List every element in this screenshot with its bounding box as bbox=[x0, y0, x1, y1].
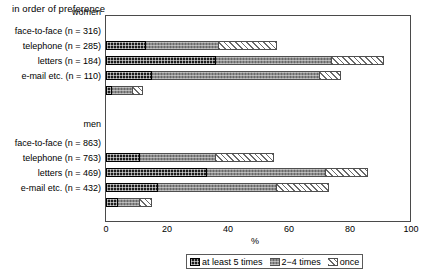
x-axis-tick-label: 20 bbox=[152, 224, 182, 234]
x-axis-tick-label: 100 bbox=[396, 224, 422, 234]
bar-segment-2−4-times bbox=[112, 86, 133, 95]
bar-segment-at-least-5-times bbox=[106, 198, 118, 207]
bar-segment-at-least-5-times bbox=[106, 41, 146, 50]
legend-item: once bbox=[328, 257, 360, 267]
legend-label: at least 5 times bbox=[202, 257, 263, 267]
category-label: letters (n = 469) bbox=[1, 168, 101, 178]
bar-segment-once bbox=[219, 41, 277, 50]
bar-row bbox=[106, 86, 143, 95]
white-hatch-swatch bbox=[328, 258, 338, 266]
category-label: face-to-face (n = 863) bbox=[1, 138, 101, 148]
bar-row bbox=[106, 183, 329, 192]
bar-segment-2−4-times bbox=[140, 153, 216, 162]
bar-row bbox=[106, 56, 384, 65]
bar-segment-2−4-times bbox=[118, 198, 139, 207]
x-axis-ticks: 020406080100 bbox=[0, 224, 422, 236]
bar-segment-at-least-5-times bbox=[106, 153, 140, 162]
category-label: telephone (n = 763) bbox=[1, 153, 101, 163]
bar-segment-once bbox=[216, 153, 274, 162]
x-axis-tick-label: 60 bbox=[274, 224, 304, 234]
legend-label: once bbox=[340, 257, 360, 267]
legend-item: at least 5 times bbox=[190, 257, 263, 267]
bar-row bbox=[106, 153, 274, 162]
x-axis-tick-label: 40 bbox=[213, 224, 243, 234]
category-label-column: womenface-to-face (n = 316)telephone (n … bbox=[0, 0, 101, 222]
legend-label: 2−4 times bbox=[282, 257, 321, 267]
bar-row bbox=[106, 198, 152, 207]
bar-segment-2−4-times bbox=[216, 56, 332, 65]
bar-row bbox=[106, 41, 277, 50]
bar-segment-once bbox=[332, 56, 384, 65]
bar-segment-once bbox=[326, 168, 369, 177]
x-axis-label: % bbox=[0, 236, 422, 246]
category-label: e-mail etc. (n = 432) bbox=[1, 183, 101, 193]
legend-item: 2−4 times bbox=[270, 257, 321, 267]
bar-segment-at-least-5-times bbox=[106, 56, 216, 65]
bar-segment-once bbox=[277, 183, 329, 192]
bar-row bbox=[106, 168, 368, 177]
bar-segment-2−4-times bbox=[152, 71, 320, 80]
x-axis-tick-label: 80 bbox=[335, 224, 365, 234]
category-label: telephone (n = 285) bbox=[1, 41, 101, 51]
bar-segment-at-least-5-times bbox=[106, 183, 158, 192]
dark-checker-swatch bbox=[190, 258, 200, 266]
group-label-men: men bbox=[1, 119, 101, 129]
stacked-bar-chart: in order of preference womenface-to-face… bbox=[0, 0, 422, 277]
x-axis-label-text: % bbox=[251, 236, 259, 246]
bar-segment-2−4-times bbox=[207, 168, 326, 177]
gray-checker-swatch bbox=[270, 258, 280, 266]
bar-segment-once bbox=[320, 71, 341, 80]
bar-segment-at-least-5-times bbox=[106, 71, 152, 80]
category-label: letters (n = 184) bbox=[1, 56, 101, 66]
category-label: face-to-face (n = 316) bbox=[1, 26, 101, 36]
bar-segment-once bbox=[133, 86, 142, 95]
bar-row bbox=[106, 71, 341, 80]
bar-segment-at-least-5-times bbox=[106, 168, 207, 177]
chart-legend: at least 5 times2−4 timesonce bbox=[186, 254, 363, 269]
bars-layer bbox=[106, 16, 411, 221]
bar-segment-2−4-times bbox=[158, 183, 277, 192]
x-axis-tick-label: 0 bbox=[91, 224, 121, 234]
bar-segment-2−4-times bbox=[146, 41, 219, 50]
group-label-women: women bbox=[1, 7, 101, 17]
bar-segment-once bbox=[140, 198, 152, 207]
category-label: e-mail etc. (n = 110) bbox=[1, 71, 101, 81]
